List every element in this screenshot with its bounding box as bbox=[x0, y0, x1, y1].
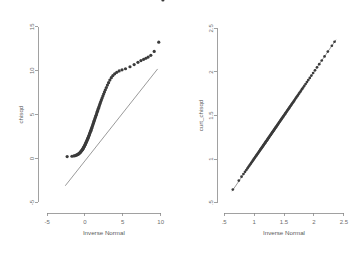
reference-line bbox=[65, 69, 157, 186]
qq-plot-panel-left: -5051015-50510Inverse Normalchisqd bbox=[0, 0, 179, 267]
y-tick-label: 15 bbox=[29, 23, 35, 30]
qq-plot-panel-right: .511.522.5.511.522.5Inverse Normalcurt_c… bbox=[179, 0, 358, 267]
y-tick-label: 2.5 bbox=[208, 24, 214, 33]
data-point bbox=[314, 69, 317, 72]
x-tick-label: 5 bbox=[121, 219, 125, 225]
x-axis-ticks: .511.522.5 bbox=[222, 213, 349, 225]
x-tick-label: -5 bbox=[44, 219, 50, 225]
data-point bbox=[149, 54, 152, 57]
data-point bbox=[147, 55, 150, 58]
data-point bbox=[320, 59, 323, 62]
y-axis-title: curt_chisqd bbox=[197, 99, 204, 131]
data-point bbox=[118, 69, 121, 72]
y-axis-title: chisqd bbox=[18, 105, 25, 123]
data-point bbox=[323, 55, 326, 58]
data-point bbox=[326, 50, 329, 53]
data-point bbox=[333, 40, 336, 43]
data-point bbox=[133, 63, 136, 66]
data-point bbox=[316, 66, 319, 69]
data-point bbox=[240, 175, 243, 178]
data-point bbox=[331, 44, 334, 47]
data-point bbox=[312, 72, 315, 75]
y-tick-label: 1 bbox=[208, 157, 214, 161]
data-point bbox=[310, 74, 313, 77]
qq-plot-right-canvas: .511.522.5.511.522.5Inverse Normalcurt_c… bbox=[179, 0, 358, 267]
data-point bbox=[153, 50, 156, 53]
x-tick-label: 10 bbox=[157, 219, 164, 225]
data-point bbox=[242, 173, 245, 176]
data-point bbox=[124, 67, 127, 70]
data-point bbox=[136, 61, 139, 64]
x-axis-title: Inverse Normal bbox=[83, 229, 125, 236]
x-tick-label: 2 bbox=[312, 219, 316, 225]
data-point bbox=[128, 65, 131, 68]
x-axis-title: Inverse Normal bbox=[263, 229, 305, 236]
data-point bbox=[232, 188, 235, 191]
axes bbox=[38, 27, 161, 213]
qq-plot-figure: -5051015-50510Inverse Normalchisqd .511.… bbox=[0, 0, 358, 267]
y-tick-label: .5 bbox=[208, 199, 214, 205]
data-point bbox=[308, 77, 311, 80]
y-tick-label: 5 bbox=[29, 112, 35, 116]
x-axis-ticks: -50510 bbox=[44, 213, 164, 225]
data-point bbox=[237, 179, 240, 182]
y-tick-label: -5 bbox=[29, 199, 35, 205]
qq-plot-left-canvas: -5051015-50510Inverse Normalchisqd bbox=[0, 0, 179, 267]
y-axis-ticks: -5051015 bbox=[29, 23, 38, 205]
data-point bbox=[120, 68, 123, 71]
x-tick-label: 1.5 bbox=[280, 219, 289, 225]
x-tick-label: 0 bbox=[83, 219, 87, 225]
x-tick-label: 2.5 bbox=[340, 219, 349, 225]
y-tick-label: 0 bbox=[29, 156, 35, 160]
data-point bbox=[66, 155, 69, 158]
data-point bbox=[318, 63, 321, 66]
y-tick-label: 10 bbox=[29, 67, 35, 74]
y-tick-label: 1.5 bbox=[208, 111, 214, 120]
x-tick-label: 1 bbox=[252, 219, 256, 225]
x-tick-label: .5 bbox=[222, 219, 228, 225]
y-axis-ticks: .511.522.5 bbox=[208, 24, 217, 205]
y-tick-label: 2 bbox=[208, 70, 214, 74]
data-point bbox=[157, 41, 160, 44]
data-point bbox=[161, 0, 164, 2]
